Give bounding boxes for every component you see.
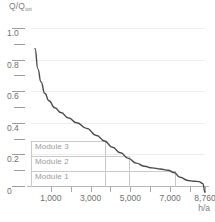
load-duration-chart: Q/Qtot h/a 1.00.80.60.40.20 1,0003,0005,…: [0, 0, 215, 222]
load-duration-curve: [35, 49, 205, 193]
curve-layer: [0, 0, 215, 222]
